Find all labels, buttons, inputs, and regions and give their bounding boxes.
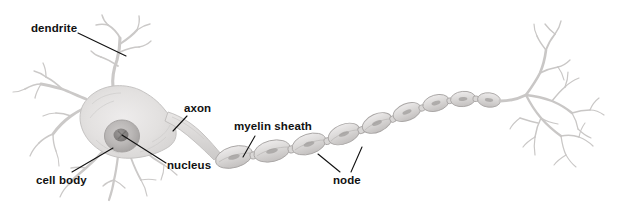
- label-dendrite: dendrite: [31, 22, 77, 34]
- label-cell-body: cell body: [36, 174, 87, 186]
- neuron-diagram-figure: dendrite axon myelin sheath nucleus cell…: [0, 0, 632, 206]
- axon-terminal-group: [500, 21, 604, 167]
- myelin-segment: [477, 92, 501, 109]
- label-node: node: [333, 174, 361, 186]
- node-leader-left: [318, 154, 340, 172]
- nucleus: [105, 120, 140, 152]
- myelin-segment: [325, 119, 363, 149]
- cell-body: [80, 86, 176, 159]
- label-axon: axon: [184, 102, 211, 114]
- myelin-segment: [252, 136, 293, 165]
- label-nucleus: nucleus: [167, 159, 211, 171]
- neuron-illustration: [0, 0, 632, 206]
- myelin-segment: [450, 90, 476, 108]
- myelin-segment: [359, 108, 395, 137]
- myelin-segment: [421, 92, 451, 115]
- node-leader-right: [351, 147, 362, 172]
- cell-body-leader: [72, 148, 113, 172]
- label-myelin-sheath: myelin sheath: [234, 120, 312, 132]
- nucleolus: [114, 129, 129, 142]
- myelin-segment: [289, 129, 328, 159]
